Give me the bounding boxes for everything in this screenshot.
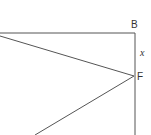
lower-diagonal-line — [35, 76, 134, 135]
upper-diagonal-line — [0, 36, 134, 76]
segment-label-x: x — [139, 47, 145, 58]
point-label-f: F — [137, 71, 143, 82]
point-label-b: B — [131, 19, 138, 30]
geometry-diagram: B x F — [0, 0, 151, 135]
